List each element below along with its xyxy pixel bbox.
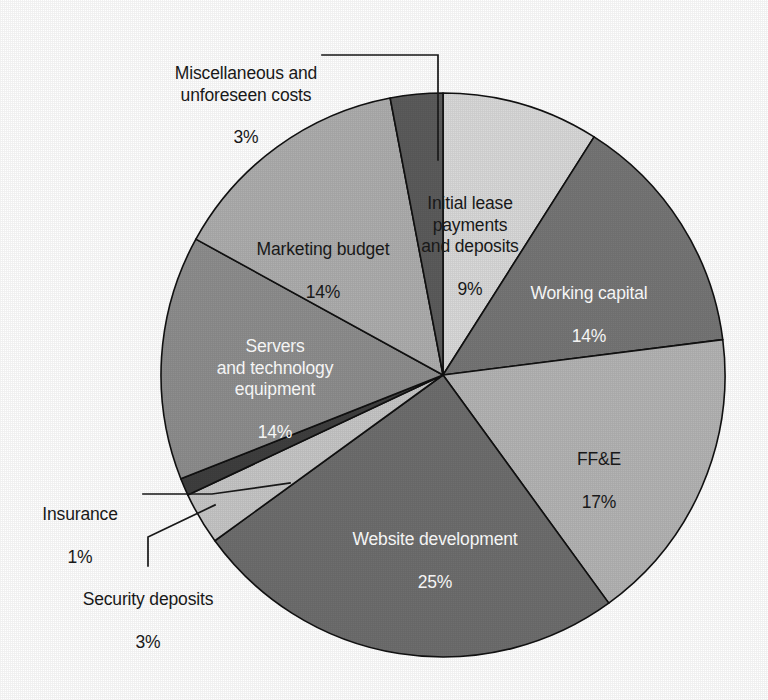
- pie-slices: [161, 93, 725, 657]
- pie-chart: Initial lease payments and deposits 9% W…: [0, 0, 768, 700]
- pie-chart-canvas: [0, 0, 768, 700]
